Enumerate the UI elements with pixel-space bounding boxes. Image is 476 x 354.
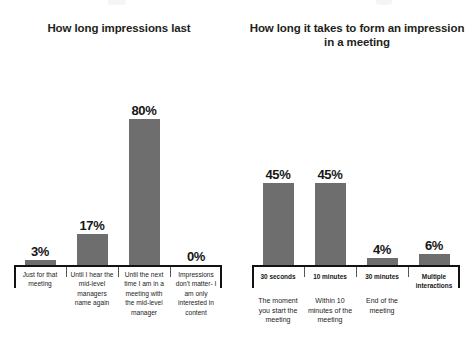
- bar-slot[interactable]: 0%: [170, 65, 222, 265]
- category-labels-right: 30 seconds10 minutes30 minutesMultiple i…: [252, 272, 460, 290]
- category-label: 30 minutes: [358, 272, 406, 290]
- chart-title-right: How long it takes to form an impression …: [246, 22, 468, 49]
- category-label: Impressions don't matter- I am only inte…: [172, 270, 220, 317]
- chart-title-left: How long impressions last: [8, 22, 230, 36]
- bar-slot[interactable]: 4%: [356, 65, 408, 265]
- bar-slot[interactable]: 3%: [14, 65, 66, 265]
- category-label: Just for that meeting: [16, 270, 64, 317]
- charts-container: How long impressions last 3%17%80%0% Jus…: [0, 0, 476, 354]
- bar-slot[interactable]: 17%: [66, 65, 118, 265]
- bar-value-label: 0%: [187, 250, 205, 263]
- bar-value-label: 45%: [317, 168, 342, 181]
- category-label: Until the next time I am in a meeting wi…: [120, 270, 168, 317]
- bar-value-label: 45%: [265, 168, 290, 181]
- bar-value-label: 17%: [79, 219, 104, 232]
- bar-group-left: 3%17%80%0%: [14, 65, 222, 265]
- plot-area-left: 3%17%80%0%: [14, 65, 222, 265]
- category-labels-left: Just for that meetingUntil I hear the mi…: [14, 270, 222, 317]
- category-descriptions-right: The moment you start the meetingWithin 1…: [252, 296, 460, 325]
- bar-rect[interactable]: [367, 258, 398, 265]
- bar-group-right: 45%45%4%6%: [252, 65, 460, 265]
- bar-rect[interactable]: [315, 183, 346, 265]
- category-description: The moment you start the meeting: [253, 296, 302, 325]
- bar-slot[interactable]: 80%: [118, 65, 170, 265]
- bar-slot[interactable]: 45%: [304, 65, 356, 265]
- bar-rect[interactable]: [77, 234, 108, 265]
- bar-rect[interactable]: [129, 119, 160, 265]
- chart-panel-impression-duration: How long impressions last 3%17%80%0% Jus…: [0, 0, 238, 354]
- category-description: [409, 296, 458, 325]
- bar-slot[interactable]: 6%: [408, 65, 460, 265]
- category-label: Until I hear the mid-level managers name…: [68, 270, 116, 317]
- chart-panel-impression-formation-time: How long it takes to form an impression …: [238, 0, 476, 354]
- plot-area-right: 45%45%4%6%: [252, 65, 460, 265]
- bar-value-label: 3%: [31, 245, 49, 258]
- category-description: Within 10 minutes of the meeting: [305, 296, 354, 325]
- bar-value-label: 4%: [373, 243, 391, 256]
- bar-value-label: 80%: [131, 104, 156, 117]
- category-label: 30 seconds: [254, 272, 302, 290]
- category-description: End of the meeting: [357, 296, 406, 325]
- bar-rect[interactable]: [263, 183, 294, 265]
- category-label: 10 minutes: [306, 272, 354, 290]
- category-label: Multiple interactions: [410, 272, 458, 290]
- bar-rect[interactable]: [419, 254, 450, 265]
- bar-slot[interactable]: 45%: [252, 65, 304, 265]
- bar-value-label: 6%: [425, 239, 443, 252]
